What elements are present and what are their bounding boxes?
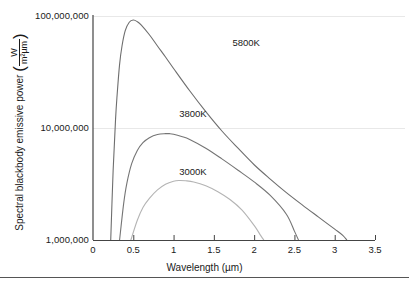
y-tick-label-text: 10,000,000 — [40, 123, 89, 133]
y-axis-title: Spectral blackbody emissive power (Wm²µm… — [10, 8, 30, 256]
x-tick-label: 0 — [78, 244, 108, 255]
y-tick-label-text: 100,000,000 — [35, 11, 89, 21]
curve-label-3800K: 3800K — [179, 108, 206, 119]
x-tick-marks — [134, 235, 376, 240]
y-axis-paren-close: ) — [10, 33, 29, 39]
y-axis-title-text: Spectral blackbody emissive power — [14, 75, 25, 231]
curve-3000K — [131, 180, 264, 240]
x-tick-label: 1 — [159, 244, 189, 255]
curve-label-3000K: 3000K — [179, 166, 206, 177]
bottom-horizontal-rule — [0, 277, 409, 278]
curve-5800K — [111, 20, 347, 240]
x-tick-label: 3.5 — [360, 244, 390, 255]
x-tick-label: 2 — [239, 244, 269, 255]
gridlines — [93, 17, 405, 129]
curve-label-5800K: 5800K — [232, 37, 259, 48]
curve-group — [111, 20, 347, 240]
x-axis-title: Wavelength (µm) — [0, 262, 409, 273]
y-axis-unit-fraction: Wm²µm — [10, 39, 29, 66]
x-axis-title-text: Wavelength (µm) — [167, 262, 243, 273]
x-tick-label: 1.5 — [199, 244, 229, 255]
x-tick-label: 0.5 — [118, 244, 148, 255]
blackbody-emissive-power-chart: 1,000,00010,000,000100,000,000 00.511.52… — [0, 0, 409, 285]
x-tick-label: 2.5 — [279, 244, 309, 255]
y-axis-unit-denominator: m²µm — [20, 39, 29, 66]
y-axis-unit-numerator: W — [10, 46, 19, 59]
x-tick-label: 3 — [320, 244, 350, 255]
y-axis-paren-open: ( — [10, 66, 29, 72]
